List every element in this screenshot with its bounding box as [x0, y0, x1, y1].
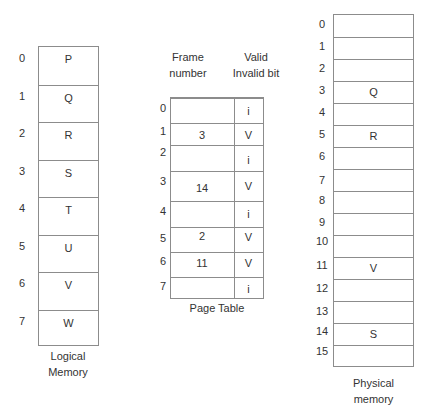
logical-memory-label: Logical Memory — [28, 348, 108, 380]
frame-index: 5 — [312, 128, 332, 140]
label-line: Logical — [28, 348, 108, 364]
logical-index: 4 — [12, 202, 32, 214]
frame-index: 2 — [312, 62, 332, 74]
logical-page-cell: W — [39, 310, 98, 347]
logical-page-cell: P — [39, 47, 98, 85]
valid-bit: V — [234, 180, 263, 192]
frame-index: 11 — [312, 259, 332, 271]
frame-index: 15 — [312, 345, 332, 357]
logical-page-cell: T — [39, 197, 98, 235]
frame-index: 3 — [312, 84, 332, 96]
frame-index: 13 — [312, 305, 332, 317]
frame-cell: R — [334, 125, 413, 147]
label-line: memory — [333, 391, 414, 407]
frame-content: Q — [334, 86, 413, 98]
frame-cell — [334, 235, 413, 257]
frame-cell — [334, 15, 413, 37]
logical-index: 6 — [12, 277, 32, 289]
frame-cell: S — [334, 323, 413, 345]
frame-cell: Q — [334, 81, 413, 103]
frame-index: 12 — [312, 282, 332, 294]
header-line: Invalid bit — [222, 65, 290, 81]
physical-memory-label: Physical memory — [333, 375, 414, 407]
frame-index: 9 — [312, 216, 332, 228]
label-line: Memory — [28, 364, 108, 380]
frame-cell — [334, 103, 413, 125]
frame-cell — [334, 59, 413, 81]
logical-index: 0 — [12, 52, 32, 64]
frame-index: 8 — [312, 194, 332, 206]
frame-cell — [334, 37, 413, 59]
logical-page-cell: R — [39, 122, 98, 160]
page-table-label: Page Table — [170, 300, 264, 316]
page-content: P — [39, 53, 98, 65]
header-line: Valid — [222, 49, 290, 65]
label-line: Physical — [333, 375, 414, 391]
page-table-row: i — [171, 98, 263, 123]
header-line: Frame — [160, 49, 216, 65]
logical-index: 7 — [12, 315, 32, 327]
valid-bit: V — [234, 231, 263, 243]
frame-number: 2 — [171, 230, 233, 242]
frame-content: S — [334, 328, 413, 340]
frame-index: 0 — [312, 18, 332, 30]
page-table-box: i 3 V i 14 V i 2 V 11 V i — [170, 97, 264, 299]
physical-memory-box: Q R V S — [333, 14, 414, 367]
page-table-row: i — [171, 277, 263, 299]
frame-content: V — [334, 262, 413, 274]
frame-index: 4 — [312, 106, 332, 118]
page-table-row: 2 V — [171, 227, 263, 252]
frame-index: 10 — [312, 235, 332, 247]
page-table-row: 14 V — [171, 171, 263, 201]
logical-index: 5 — [12, 240, 32, 252]
logical-page-cell: S — [39, 160, 98, 198]
page-content: W — [39, 317, 98, 329]
frame-index: 7 — [312, 174, 332, 186]
page-content: Q — [39, 92, 98, 104]
valid-bit: V — [234, 129, 263, 141]
frame-index: 6 — [312, 150, 332, 162]
frame-cell — [334, 301, 413, 323]
valid-bit: i — [234, 154, 263, 166]
logical-index: 2 — [12, 127, 32, 139]
frame-number-header: Frame number — [160, 49, 216, 81]
frame-number: 3 — [171, 129, 233, 141]
logical-page-cell: U — [39, 235, 98, 273]
valid-bit: i — [234, 105, 263, 117]
valid-bit: i — [234, 283, 263, 295]
page-content: V — [39, 279, 98, 291]
frame-cell — [334, 191, 413, 213]
frame-index: 14 — [312, 325, 332, 337]
page-content: U — [39, 242, 98, 254]
page-content: S — [39, 167, 98, 179]
frame-cell — [334, 279, 413, 301]
frame-cell — [334, 213, 413, 235]
header-line: number — [160, 65, 216, 81]
page-table-row: i — [171, 201, 263, 227]
page-table-row: i — [171, 145, 263, 171]
frame-cell: V — [334, 257, 413, 279]
frame-cell — [334, 147, 413, 169]
frame-cell — [334, 345, 413, 366]
valid-invalid-header: Valid Invalid bit — [222, 49, 290, 81]
frame-number: 11 — [171, 257, 233, 269]
page-content: T — [39, 204, 98, 216]
frame-cell — [334, 169, 413, 191]
logical-index: 3 — [12, 165, 32, 177]
logical-index: 1 — [12, 90, 32, 102]
frame-content: R — [334, 130, 413, 142]
valid-bit: i — [234, 208, 263, 220]
page-content: R — [39, 129, 98, 141]
frame-index: 1 — [312, 40, 332, 52]
logical-memory-box: P Q R S T U V W — [38, 46, 99, 346]
page-table-row: 11 V — [171, 252, 263, 277]
valid-bit: V — [234, 257, 263, 269]
logical-page-cell: V — [39, 272, 98, 310]
page-table-row: 3 V — [171, 123, 263, 145]
frame-number: 14 — [171, 182, 233, 194]
logical-page-cell: Q — [39, 85, 98, 123]
